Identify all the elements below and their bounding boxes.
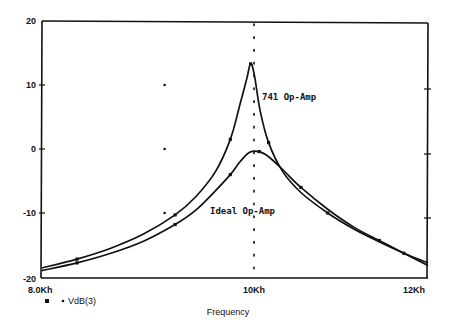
frequency-response-chart: 20 10 0 -10 -20 8.0Kh 10Kh 12Kh Frequenc… <box>0 0 450 329</box>
x-tick-label-12k: 12Kh <box>403 285 425 295</box>
stray-dot-marker <box>163 148 166 151</box>
legend-square-marker-icon <box>45 299 49 303</box>
data-point-marker <box>229 173 232 176</box>
series-741-op-amp-line <box>42 64 428 268</box>
data-point-marker <box>258 150 261 153</box>
data-point-marker <box>174 223 177 226</box>
legend: VdB(3) <box>45 296 96 306</box>
data-point-marker <box>378 239 381 242</box>
data-point-marker <box>174 213 177 216</box>
annotation-ideal-op-amp: Ideal Op-Amp <box>210 206 276 216</box>
data-point-marker <box>229 138 232 141</box>
y-tick-label-20: 20 <box>26 16 36 26</box>
data-point-marker <box>326 211 329 214</box>
data-point-marker <box>249 62 252 65</box>
y-tick-label-0: 0 <box>31 144 36 154</box>
x-tick-label-8k: 8.0Kh <box>28 285 53 295</box>
stray-dot-marker <box>163 84 166 87</box>
y-tick-label-minus20: -20 <box>23 274 36 284</box>
data-point-marker <box>299 186 302 189</box>
x-tick-label-10k: 10Kh <box>243 285 265 295</box>
data-point-marker <box>75 261 78 264</box>
annotation-741-op-amp: 741 Op-Amp <box>262 92 317 102</box>
top-axis-line <box>42 21 428 23</box>
data-point-marker <box>75 258 78 261</box>
legend-dot-marker-icon <box>62 300 65 303</box>
data-point-marker <box>267 141 270 144</box>
series-layer <box>42 62 428 270</box>
right-axis-line <box>427 23 428 278</box>
y-tick-label-10: 10 <box>26 80 36 90</box>
stray-markers <box>163 84 166 215</box>
plot-frame <box>41 21 428 278</box>
y-tick-label-minus10: -10 <box>23 208 36 218</box>
stray-dot-marker <box>163 212 166 215</box>
legend-label: VdB(3) <box>68 296 96 306</box>
x-axis-title: Frequency <box>207 307 250 317</box>
